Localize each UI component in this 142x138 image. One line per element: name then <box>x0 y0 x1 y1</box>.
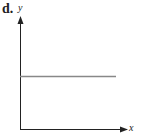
graph <box>0 0 142 138</box>
x-axis <box>20 127 128 133</box>
x-axis-arrow-icon <box>120 127 128 133</box>
y-axis <box>18 16 24 130</box>
y-axis-arrow-icon <box>18 16 24 24</box>
